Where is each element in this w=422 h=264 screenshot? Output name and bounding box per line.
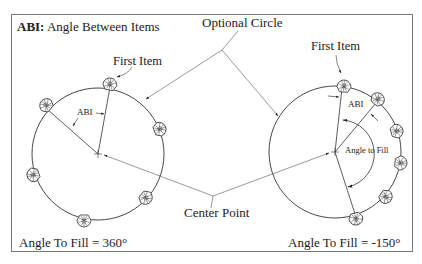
right-pattern — [269, 55, 408, 227]
title-text: Angle Between Items — [44, 19, 159, 34]
abi-label-left: ABI — [77, 108, 93, 117]
center-point-label: Center Point — [184, 206, 249, 219]
diagram-title: ABI: Angle Between Items — [17, 20, 160, 33]
angle-to-fill-left-caption: Angle To Fill = 360° — [19, 236, 127, 249]
first-item-label-left: First Item — [113, 55, 162, 68]
optional-circle-label: Optional Circle — [202, 16, 283, 29]
angle-to-fill-inner-label: Angle to Fill — [345, 146, 388, 155]
angle-to-fill-right-caption: Angle To Fill = -150° — [288, 236, 401, 249]
circular-pattern-diagram: ABI: Angle Between Items Optional Circle… — [0, 0, 422, 264]
abi-label-right: ABI — [348, 100, 364, 109]
title-abbrev: ABI: — [17, 19, 44, 34]
left-pattern — [25, 67, 168, 227]
first-item-label-right: First Item — [311, 40, 360, 53]
